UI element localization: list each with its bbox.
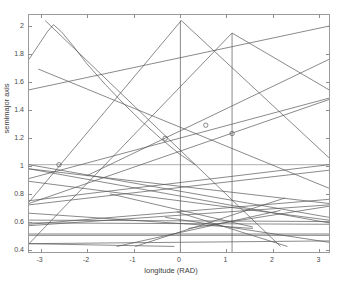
curve-1 — [29, 25, 195, 165]
x-tick — [180, 249, 181, 253]
y-tick — [28, 54, 32, 55]
line-d — [87, 59, 329, 175]
y-tick — [28, 26, 32, 27]
y-tick — [28, 110, 32, 111]
y-tick-right — [326, 250, 330, 251]
x-tick — [273, 249, 274, 253]
x-tick-label: 3 — [316, 256, 320, 263]
line-x — [29, 244, 174, 247]
y-tick — [28, 194, 32, 195]
y-tick-right — [326, 54, 330, 55]
y-tick-label: 1 — [20, 161, 24, 168]
x-tick-top — [180, 14, 181, 18]
x-tick-label: -3 — [36, 256, 42, 263]
y-tick-label: 1.4 — [14, 106, 24, 113]
line-c — [45, 21, 280, 247]
line-j — [29, 98, 329, 178]
line-p — [29, 181, 329, 220]
x-tick-top — [41, 14, 42, 18]
line-m — [29, 165, 329, 201]
x-tick — [226, 249, 227, 253]
y-tick-right — [326, 110, 330, 111]
y-tick — [28, 250, 32, 251]
x-tick-label: 2 — [270, 256, 274, 263]
y-tick-right — [326, 82, 330, 83]
y-tick-label: 1.8 — [14, 50, 24, 57]
x-tick-top — [134, 14, 135, 18]
line-g — [29, 33, 232, 244]
x-tick-label: -2 — [83, 256, 89, 263]
y-tick-right — [326, 194, 330, 195]
x-tick-top — [226, 14, 227, 18]
y-tick-label: 0.4 — [14, 245, 24, 252]
x-tick-top — [319, 14, 320, 18]
line-a — [38, 69, 329, 188]
x-tick — [41, 249, 42, 253]
x-tick — [319, 249, 320, 253]
figure-title-ghost — [0, 0, 342, 8]
y-tick-right — [326, 138, 330, 139]
x-tick-label: -1 — [129, 256, 135, 263]
x-tick-top — [273, 14, 274, 18]
x-tick-label: 0 — [177, 256, 181, 263]
y-tick — [28, 82, 32, 83]
line-ab — [110, 194, 253, 227]
x-tick — [87, 249, 88, 253]
y-tick — [28, 166, 32, 167]
x-tick-top — [87, 14, 88, 18]
y-axis-label: semimajor axis — [2, 69, 11, 149]
y-tick-right — [326, 166, 330, 167]
y-tick-label: 1.6 — [14, 78, 24, 85]
line-w — [29, 241, 329, 244]
y-tick-label: 0.6 — [14, 217, 24, 224]
plot-lines — [29, 15, 329, 252]
line-e — [29, 21, 181, 203]
plot-axes — [28, 14, 330, 253]
x-tick-label: 1 — [224, 256, 228, 263]
y-tick-right — [326, 26, 330, 27]
y-tick-right — [326, 222, 330, 223]
line-k — [29, 165, 329, 218]
y-tick — [28, 222, 32, 223]
y-tick-label: 2 — [20, 22, 24, 29]
marker-3 — [204, 123, 208, 127]
y-tick-label: 0.8 — [14, 189, 24, 196]
line-y — [117, 210, 281, 246]
line-l — [29, 169, 329, 223]
line-b — [29, 26, 329, 90]
y-tick — [28, 138, 32, 139]
line-f — [181, 21, 329, 158]
y-tick-label: 1.2 — [14, 133, 24, 140]
x-tick — [134, 249, 135, 253]
line-r — [29, 205, 329, 226]
x-axis-label: longitude (RAD) — [0, 266, 342, 275]
figure-canvas: longitude (RAD) semimajor axis -3-2-1012… — [0, 0, 342, 282]
